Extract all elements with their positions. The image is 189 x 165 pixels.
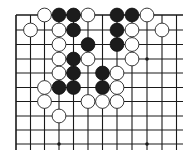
star-point bbox=[145, 142, 149, 146]
star-point bbox=[57, 142, 61, 146]
white-stone bbox=[81, 8, 95, 22]
black-stone bbox=[96, 66, 110, 80]
black-stone bbox=[67, 52, 81, 66]
black-stone bbox=[67, 66, 81, 80]
white-stone bbox=[38, 95, 52, 109]
black-stone bbox=[96, 81, 110, 95]
white-stone bbox=[155, 23, 169, 37]
white-stone bbox=[38, 8, 52, 22]
white-stone bbox=[52, 38, 66, 52]
white-stone bbox=[140, 8, 154, 22]
go-board bbox=[0, 0, 189, 165]
white-stone bbox=[110, 66, 124, 80]
black-stone bbox=[81, 38, 95, 52]
black-stone bbox=[125, 8, 139, 22]
black-stone bbox=[67, 8, 81, 22]
white-stone bbox=[125, 23, 139, 37]
white-stone bbox=[110, 95, 124, 109]
black-stone bbox=[110, 38, 124, 52]
white-stone bbox=[125, 52, 139, 66]
white-stone bbox=[52, 109, 66, 123]
white-stone bbox=[110, 81, 124, 95]
black-stone bbox=[52, 81, 66, 95]
white-stone bbox=[24, 23, 38, 37]
white-stone bbox=[52, 23, 66, 37]
black-stone bbox=[110, 8, 124, 22]
white-stone bbox=[125, 38, 139, 52]
white-stone bbox=[81, 52, 95, 66]
white-stone bbox=[81, 95, 95, 109]
white-stone bbox=[38, 81, 52, 95]
black-stone bbox=[110, 23, 124, 37]
black-stone bbox=[67, 81, 81, 95]
black-stone bbox=[67, 23, 81, 37]
white-stone bbox=[96, 95, 110, 109]
white-stone bbox=[52, 66, 66, 80]
white-stone bbox=[52, 52, 66, 66]
black-stone bbox=[52, 8, 66, 22]
star-point bbox=[145, 57, 149, 61]
